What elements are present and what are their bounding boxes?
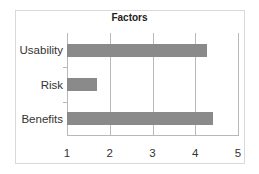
gridline bbox=[238, 33, 239, 136]
x-tick-label: 1 bbox=[64, 147, 70, 159]
y-tick bbox=[63, 102, 67, 103]
y-tick bbox=[63, 67, 67, 68]
x-tick-label: 4 bbox=[192, 147, 198, 159]
bar-usability bbox=[67, 44, 207, 57]
bar-benefits bbox=[67, 112, 213, 125]
plot-area bbox=[67, 33, 238, 136]
category-label: Benefits bbox=[21, 113, 63, 125]
category-label: Usability bbox=[20, 44, 63, 56]
chart-title: Factors bbox=[0, 12, 259, 23]
bar-risk bbox=[67, 78, 97, 91]
x-tick-label: 2 bbox=[107, 147, 113, 159]
x-tick-label: 3 bbox=[149, 147, 155, 159]
category-label: Risk bbox=[41, 79, 63, 91]
x-tick-label: 5 bbox=[235, 147, 241, 159]
